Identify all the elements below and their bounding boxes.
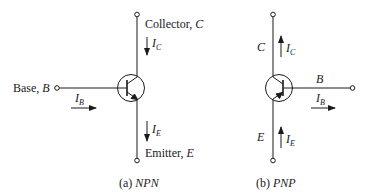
npn-emitter-label: Emitter, E <box>145 146 195 160</box>
pnp-transistor <box>266 12 355 163</box>
pnp-caption: (b) PNP <box>256 176 296 190</box>
npn-transistor <box>55 12 147 163</box>
npn-base-label: Base, B <box>13 81 50 95</box>
npn-collector-terminal <box>135 12 140 17</box>
npn-collector-diagonal <box>127 77 137 84</box>
pnp-ib-label: IB <box>315 91 325 107</box>
npn-emitter-terminal <box>135 158 140 163</box>
pnp-emitter-terminal <box>271 158 276 163</box>
pnp-collector-terminal <box>271 12 276 17</box>
pnp-base-terminal <box>350 86 355 91</box>
transistor-diagram: Collector, C Base, B Emitter, E IC IB IE… <box>0 0 371 196</box>
pnp-ie-label: IE <box>285 132 295 148</box>
npn-ic-label: IC <box>151 36 162 52</box>
pnp-ic-label: IC <box>285 41 296 57</box>
pnp-emitter-label: E <box>256 130 265 144</box>
npn-ib-label: IB <box>74 91 84 107</box>
npn-collector-label: Collector, C <box>145 17 204 31</box>
pnp-emitter-arrow-icon <box>276 93 283 99</box>
pnp-base-label: B <box>316 72 324 86</box>
npn-ie-label: IE <box>151 122 161 138</box>
npn-emitter-arrow-icon <box>131 94 138 100</box>
pnp-collector-label: C <box>257 40 266 54</box>
npn-caption: (a) NPN <box>119 176 160 190</box>
pnp-collector-diagonal <box>273 77 283 84</box>
npn-base-terminal <box>55 86 60 91</box>
